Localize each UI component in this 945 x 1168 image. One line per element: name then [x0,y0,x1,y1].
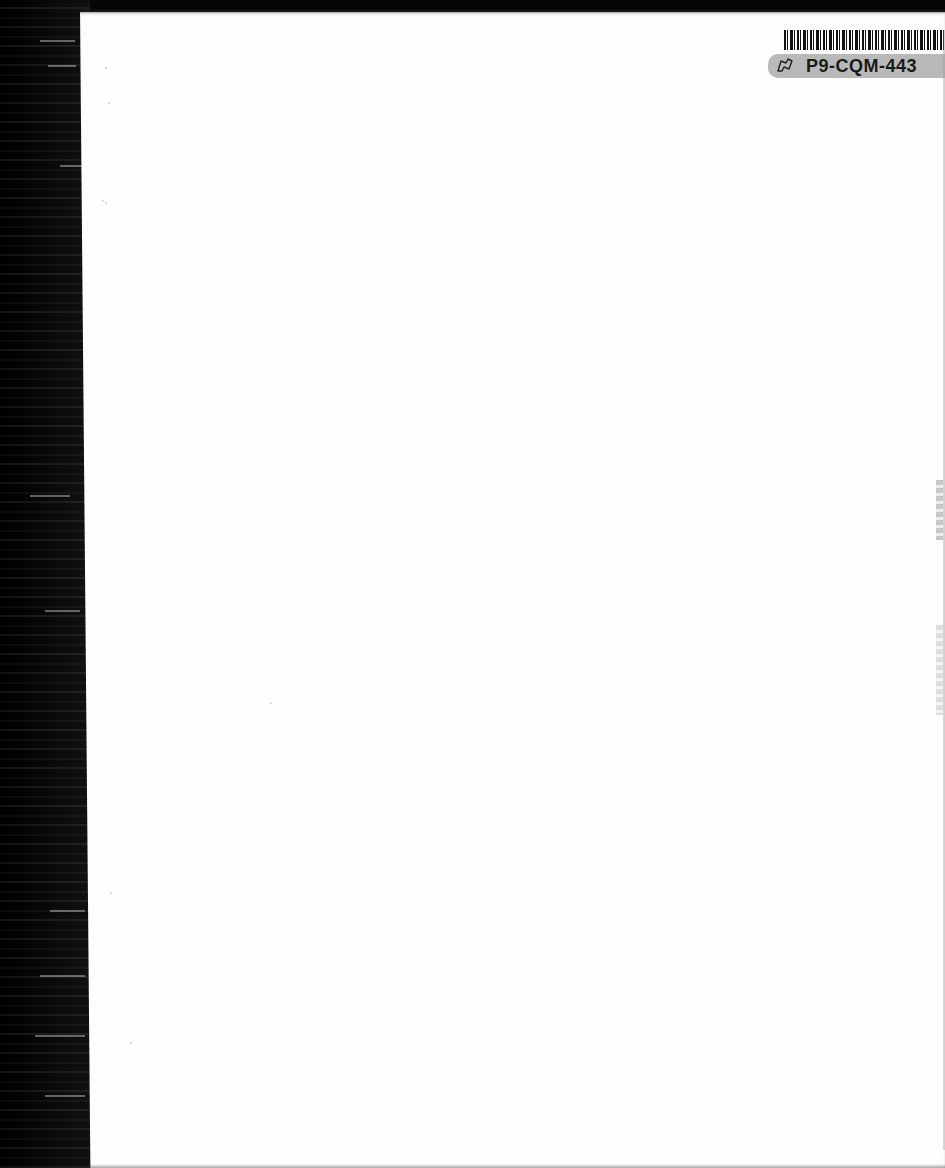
page-top-shadow [80,10,945,14]
blank-page [80,12,945,1168]
scanned-page: P9-CQM-443 [0,0,945,1168]
barcode-strip: P9-CQM-443 [768,54,945,78]
barcode-label: P9-CQM-443 [768,30,945,80]
barcode-bars [784,30,945,50]
book-binding-edge [0,0,90,1168]
edge-print-mark [936,625,943,715]
barcode-code: P9-CQM-443 [806,56,917,77]
edge-print-mark [936,480,943,540]
flag-outline-icon [774,57,796,75]
